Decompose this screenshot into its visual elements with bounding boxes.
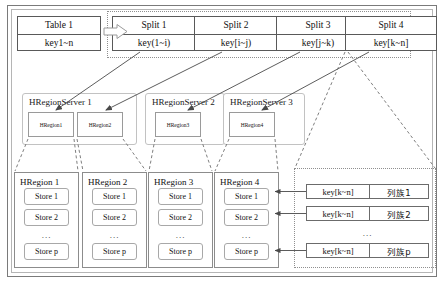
- column-family-name: 列族p: [370, 244, 428, 257]
- store-box: Store 1: [92, 188, 137, 205]
- store-ellipsis: ...: [158, 230, 203, 240]
- column-family-row-3: key[k~n] 列族p: [306, 243, 429, 258]
- hregion-title: HRegion 2: [88, 177, 127, 187]
- column-family-row-1: key[k~n] 列族1: [306, 184, 429, 199]
- split-keyrange: key(1~i): [113, 35, 195, 53]
- store-box: Store 1: [158, 188, 203, 205]
- store-ellipsis: ...: [24, 230, 69, 240]
- column-family-key: key[k~n]: [307, 244, 370, 257]
- store-box: Store 2: [224, 209, 269, 226]
- column-family-name: 列族2: [370, 207, 428, 220]
- store-box: Store p: [224, 243, 269, 260]
- hregion-title: HRegion 4: [220, 177, 259, 187]
- store-ellipsis: ...: [224, 230, 269, 240]
- split-name: Split 1: [113, 17, 195, 35]
- hregion-title: HRegion 3: [154, 177, 193, 187]
- split-keyrange: key[i~j): [195, 35, 277, 53]
- region-server-label: HRegionServer 1: [29, 97, 92, 107]
- region-server-label: HRegionServer 3: [230, 97, 293, 107]
- column-family-name: 列族1: [370, 185, 428, 198]
- table-name: Table 1: [18, 17, 100, 35]
- store-box: Store 2: [92, 209, 137, 226]
- region-server-label: HRegionServer 2: [152, 97, 215, 107]
- split-box-4: Split 4 key[k~n]: [345, 16, 437, 51]
- store-box: Store 2: [158, 209, 203, 226]
- hregion-small-2: HRegion2: [77, 112, 123, 137]
- store-box: Store p: [24, 243, 69, 260]
- column-family-ellipsis: ...: [306, 228, 429, 238]
- hregion-small-1: HRegion1: [28, 112, 74, 137]
- column-family-key: key[k~n]: [307, 207, 370, 220]
- hregion-small-4: HRegion4: [229, 112, 275, 137]
- store-box: Store p: [158, 243, 203, 260]
- table-box: Table 1 key1~n: [17, 16, 101, 51]
- split-box-2: Split 2 key[i~j): [194, 16, 278, 51]
- diagram-canvas: Table 1 key1~n Split 1 key(1~i) Split 2 …: [0, 0, 444, 285]
- store-box: Store 1: [24, 188, 69, 205]
- split-box-1: Split 1 key(1~i): [112, 16, 196, 51]
- store-box: Store p: [92, 243, 137, 260]
- column-family-key: key[k~n]: [307, 185, 370, 198]
- table-keyrange: key1~n: [18, 35, 100, 53]
- column-family-row-2: key[k~n] 列族2: [306, 206, 429, 221]
- split-name: Split 4: [346, 17, 436, 35]
- store-box: Store 2: [24, 209, 69, 226]
- split-name: Split 2: [195, 17, 277, 35]
- hregion-title: HRegion 1: [20, 177, 59, 187]
- hregion-small-3: HRegion3: [155, 112, 201, 137]
- split-keyrange: key[k~n]: [346, 35, 436, 53]
- store-ellipsis: ...: [92, 230, 137, 240]
- store-box: Store 1: [224, 188, 269, 205]
